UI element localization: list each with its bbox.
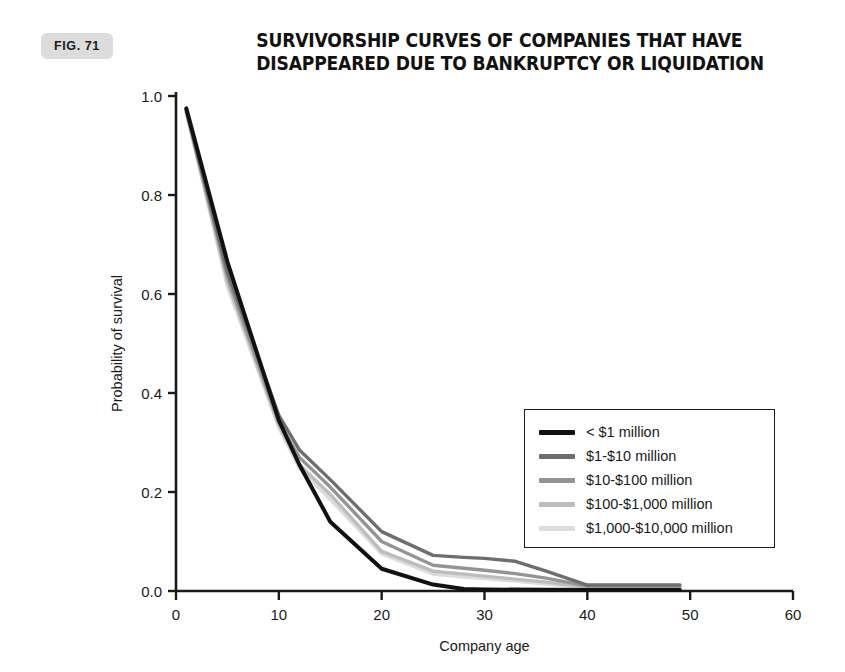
legend-swatch-icon: [539, 478, 575, 483]
legend-item: $1-$10 million: [539, 444, 774, 468]
chart-plot-area: 0.00.20.40.60.81.00102030405060Company a…: [0, 0, 845, 672]
x-axis-title: Company age: [439, 638, 529, 654]
x-axis-tick-label: 60: [785, 606, 802, 623]
y-axis-tick-label: 0.6: [141, 286, 162, 303]
y-axis-tick-label: 1.0: [141, 88, 162, 105]
y-axis-tick-label: 0.4: [141, 385, 162, 402]
legend-item-label: < $1 million: [586, 424, 660, 440]
legend-item: $1,000-$10,000 million: [539, 516, 774, 540]
x-axis-tick-label: 10: [270, 606, 287, 623]
x-axis-tick-label: 30: [476, 606, 493, 623]
x-axis-tick-label: 40: [579, 606, 596, 623]
legend-item-label: $1,000-$10,000 million: [586, 520, 733, 536]
y-axis-title: Probability of survival: [109, 275, 125, 412]
legend-swatch-icon: [539, 454, 575, 459]
legend-item: < $1 million: [539, 420, 774, 444]
y-axis-tick-label: 0.8: [141, 187, 162, 204]
legend-item-label: $1-$10 million: [586, 448, 676, 464]
y-axis-tick-label: 0.2: [141, 484, 162, 501]
legend-item-label: $100-$1,000 million: [586, 496, 713, 512]
chart-legend: < $1 million$1-$10 million$10-$100 milli…: [524, 409, 775, 548]
x-axis-tick-label: 20: [373, 606, 390, 623]
survivorship-line-chart: 0.00.20.40.60.81.00102030405060Company a…: [0, 0, 845, 672]
legend-item-label: $10-$100 million: [586, 472, 692, 488]
x-axis-tick-label: 0: [172, 606, 180, 623]
legend-item: $100-$1,000 million: [539, 492, 774, 516]
y-axis-tick-label: 0.0: [141, 583, 162, 600]
legend-item: $10-$100 million: [539, 468, 774, 492]
legend-swatch-icon: [539, 430, 575, 435]
legend-swatch-icon: [539, 502, 575, 507]
x-axis-tick-label: 50: [682, 606, 699, 623]
legend-swatch-icon: [539, 526, 575, 531]
